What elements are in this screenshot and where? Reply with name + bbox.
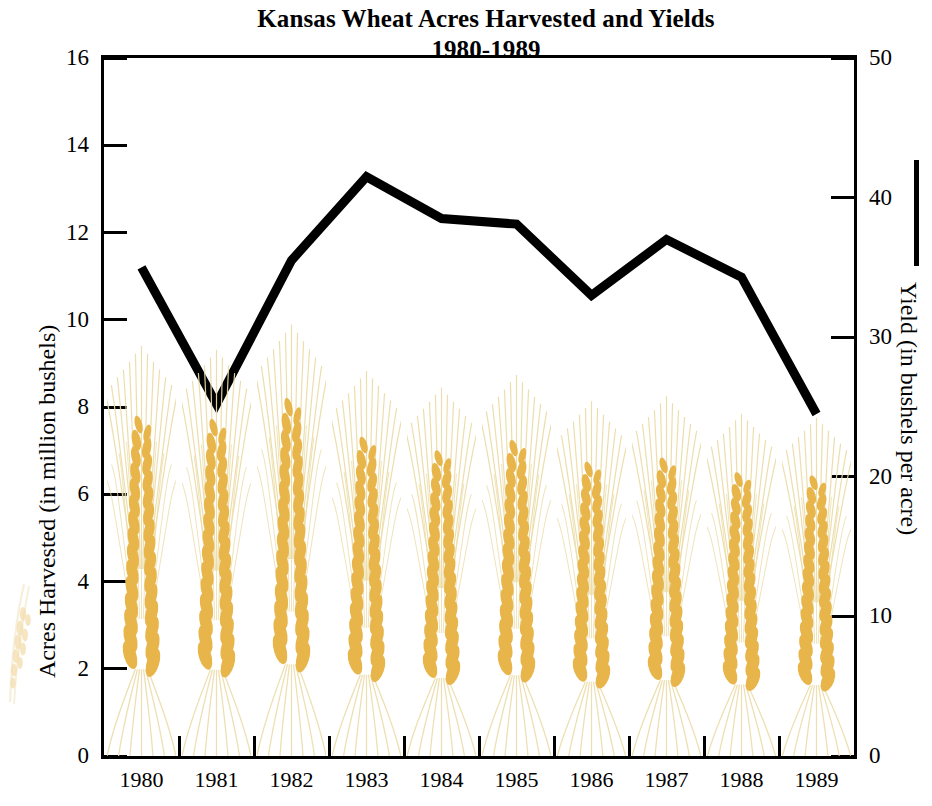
x-axis-tick-label: 1985 xyxy=(474,767,560,793)
y-axis-left-tick-label: 16 xyxy=(45,46,89,69)
x-axis-tick xyxy=(778,736,781,756)
y-axis-right-title-wrap: Yield (in bushels per acre) xyxy=(922,282,923,283)
y-axis-right-tick-label: 40 xyxy=(869,186,913,209)
plot-inner xyxy=(104,58,854,756)
y-axis-right-tick xyxy=(831,196,854,199)
y-axis-left-tick xyxy=(104,231,127,234)
y-axis-right-tick xyxy=(831,336,854,339)
wheat-stalk-icon xyxy=(332,359,401,756)
y-axis-left-tick-label: 4 xyxy=(45,570,89,593)
y-axis-left-tick xyxy=(104,144,127,147)
x-axis-tick xyxy=(403,736,406,756)
y-axis-left-tick-label: 8 xyxy=(45,395,89,418)
x-axis-tick-label: 1989 xyxy=(774,767,860,793)
plot-area xyxy=(101,55,857,759)
y-axis-left-tick-label: 2 xyxy=(45,657,89,680)
y-axis-left-tick-label: 0 xyxy=(45,744,89,767)
x-axis-tick xyxy=(478,736,481,756)
x-axis-tick-label: 1983 xyxy=(324,767,410,793)
wheat-stalk-icon xyxy=(257,311,326,756)
wheat-stalk-icon xyxy=(107,333,176,756)
y-axis-left-tick-label: 14 xyxy=(45,133,89,156)
wheat-stalk-icon xyxy=(782,407,851,756)
wheat-stalk-icon xyxy=(557,390,626,756)
y-axis-right-tick-label: 20 xyxy=(869,465,913,488)
y-axis-left-title-wrap: Acres Harvested (in million bushels) xyxy=(36,560,37,561)
y-axis-right-tick-label: 0 xyxy=(869,744,913,767)
x-axis-tick-label: 1982 xyxy=(249,767,335,793)
x-axis-tick-label: 1984 xyxy=(399,767,485,793)
x-axis-tick xyxy=(703,736,706,756)
x-axis-tick xyxy=(628,736,631,756)
wheat-stalk-icon xyxy=(482,363,551,756)
y-axis-left-tick-label: 10 xyxy=(45,308,89,331)
y-axis-left-tick xyxy=(104,58,127,60)
x-axis-tick-label: 1981 xyxy=(174,767,260,793)
chart-title-line1: Kansas Wheat Acres Harvested and Yields xyxy=(257,5,714,32)
y-axis-left-tick-label: 12 xyxy=(45,221,89,244)
y-axis-left-tick-label: 6 xyxy=(45,482,89,505)
x-axis-tick xyxy=(553,736,556,756)
x-axis-tick xyxy=(253,736,256,756)
y-axis-right-tick-label: 50 xyxy=(869,46,913,69)
wheat-stalk-icon xyxy=(707,403,776,756)
wheat-stalk-icon xyxy=(182,337,251,756)
y-axis-right-tick xyxy=(831,58,854,60)
x-axis-tick-label: 1986 xyxy=(549,767,635,793)
x-axis-tick xyxy=(328,736,331,756)
x-axis-tick-label: 1988 xyxy=(699,767,785,793)
y-axis-left-tick xyxy=(104,318,127,321)
x-axis-tick-label: 1987 xyxy=(624,767,710,793)
y-axis-right-tick-label: 10 xyxy=(869,604,913,627)
x-axis-tick-label: 1980 xyxy=(99,767,185,793)
x-axis-tick xyxy=(178,736,181,756)
line-swatch-icon xyxy=(914,160,919,266)
wheat-stalk-icon xyxy=(632,385,701,756)
chart-canvas: Kansas Wheat Acres Harvested and Yields … xyxy=(0,0,932,806)
wheat-stalk-icon xyxy=(407,376,476,756)
y-axis-right-tick-label: 30 xyxy=(869,325,913,348)
